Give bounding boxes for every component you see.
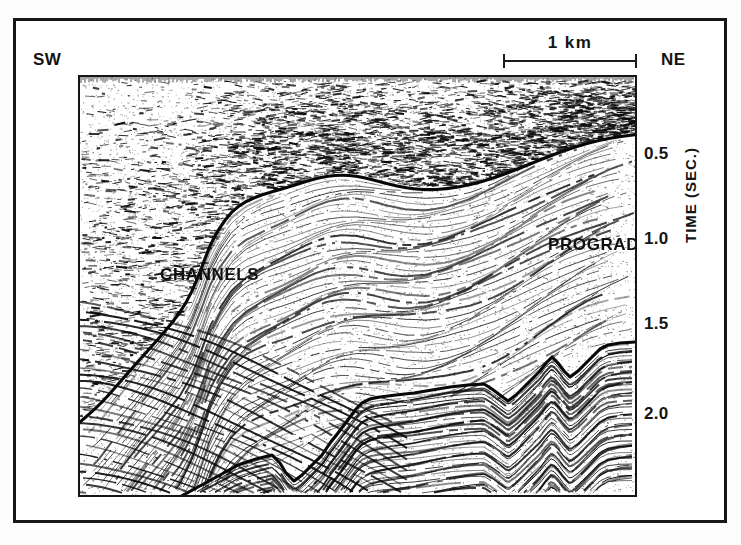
orientation-label-ne: NE [661, 50, 686, 70]
annotation-channels: CHANNELS [160, 265, 259, 285]
time-axis: 0.51.01.52.0 [640, 75, 700, 497]
scale-bar-tick-right [635, 54, 637, 68]
seismic-wiggle-trace-image [80, 77, 635, 495]
scale-bar: 1 km [503, 33, 637, 67]
seismic-section-panel: CHANNELS PROGRADING TURBIDITES [78, 75, 637, 497]
annotation-prograding: PROGRADING [548, 235, 637, 255]
time-axis-tick-1: 1.0 [644, 229, 669, 249]
time-axis-tick-1-5: 1.5 [644, 314, 669, 334]
seismic-figure: SW NE 1 km CHANNELS PROGRADING TURBIDITE… [0, 0, 741, 545]
scale-bar-tick-left [503, 54, 505, 68]
time-axis-tick-0-5: 0.5 [644, 144, 669, 164]
time-axis-title: TIME (SEC.) [682, 147, 699, 243]
scale-bar-label: 1 km [503, 33, 637, 53]
scan-artifact-text: · · · · · · · · · · · · [215, 534, 545, 539]
time-axis-tick-2: 2.0 [644, 404, 669, 424]
scale-bar-rule [503, 60, 637, 62]
orientation-label-sw: SW [33, 50, 61, 70]
